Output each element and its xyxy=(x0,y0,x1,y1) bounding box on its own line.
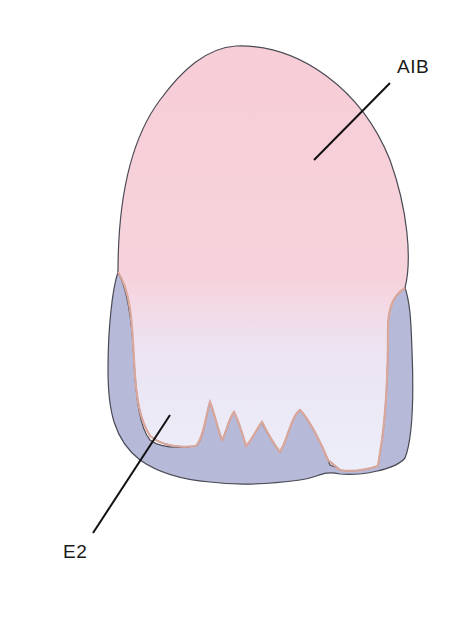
aib-label: AIB xyxy=(397,56,429,78)
e2-label: E2 xyxy=(63,541,87,563)
tooth-diagram: AIB E2 xyxy=(0,0,460,624)
tooth-illustration xyxy=(0,0,460,624)
